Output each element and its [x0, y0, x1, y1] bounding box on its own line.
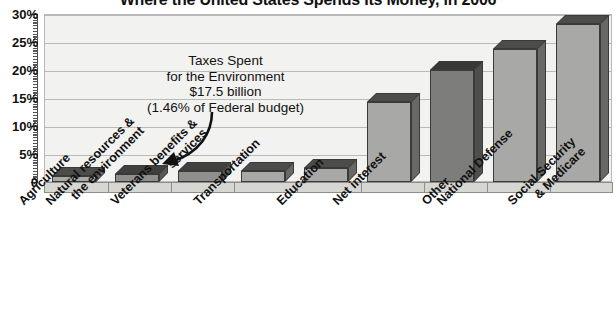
- y-tick-minor: [33, 25, 38, 26]
- y-tick-minor: [33, 78, 38, 79]
- bar-front-face: [241, 171, 285, 182]
- y-axis-label-2: 10%: [12, 119, 38, 134]
- x-axis-labels: AgricultureNatural resources &the enviro…: [0, 194, 616, 310]
- chart-title: Where the United States Spends Its Money…: [0, 0, 616, 9]
- y-tick-minor: [33, 81, 38, 82]
- y-tick-minor: [33, 168, 38, 169]
- y-tick-minor: [33, 137, 38, 138]
- annotation-line-2: for the Environment: [118, 69, 333, 85]
- y-tick-minor: [33, 56, 38, 57]
- y-tick-minor: [33, 143, 38, 144]
- y-tick-minor: [33, 106, 38, 107]
- chart-container: Where the United States Spends Its Money…: [0, 0, 616, 310]
- annotation-line-3: $17.5 billion: [118, 84, 333, 100]
- annotation-line-1: Taxes Spent: [118, 53, 333, 69]
- annotation-callout: Taxes Spent for the Environment $17.5 bi…: [118, 53, 333, 115]
- y-axis-label-4: 20%: [12, 63, 38, 78]
- bar-top-face: [556, 15, 609, 24]
- bar-3: [241, 171, 285, 182]
- bar-front-face: [493, 49, 537, 182]
- y-tick-minor: [33, 115, 38, 116]
- bar-side-face: [600, 14, 609, 182]
- y-tick-minor: [33, 59, 38, 60]
- bar-7: [493, 49, 537, 182]
- y-tick-minor: [33, 112, 38, 113]
- bar-side-face: [411, 93, 420, 182]
- y-tick-minor: [33, 134, 38, 135]
- y-tick-minor: [33, 162, 38, 163]
- y-tick-minor: [33, 87, 38, 88]
- y-tick-minor: [33, 50, 38, 51]
- y-tick-minor: [33, 140, 38, 141]
- y-tick-minor: [33, 84, 38, 85]
- y-tick-minor: [33, 31, 38, 32]
- bar-top-face: [367, 93, 420, 102]
- y-axis-label-3: 15%: [12, 91, 38, 106]
- bar-top-face: [493, 40, 546, 49]
- y-tick-minor: [33, 28, 38, 29]
- y-tick-minor: [33, 53, 38, 54]
- y-tick-minor: [33, 171, 38, 172]
- y-tick-minor: [33, 165, 38, 166]
- y-tick-minor: [33, 109, 38, 110]
- y-axis: 05%10%15%20%25%30%: [0, 0, 44, 192]
- y-tick-minor: [33, 22, 38, 23]
- y-axis-label-5: 25%: [12, 35, 38, 50]
- y-axis-label-6: 30%: [12, 7, 38, 22]
- y-axis-label-1: 5%: [19, 147, 38, 162]
